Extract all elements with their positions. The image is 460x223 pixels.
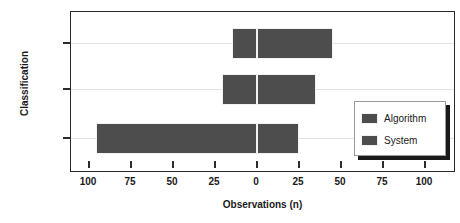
x-tick-mark-3	[214, 161, 216, 168]
legend-swatch-algorithm	[361, 113, 378, 124]
x-tick-label-4: 0	[236, 176, 276, 187]
chart-legend: Algorithm System	[354, 101, 446, 156]
x-tick-mark-4	[256, 161, 258, 168]
bar-algorithm-mop	[96, 123, 257, 154]
bar-algorithm-moe	[222, 74, 257, 105]
legend-item-algorithm: Algorithm	[361, 108, 426, 128]
x-tick-label-8: 100	[404, 176, 444, 187]
x-tick-mark-1	[130, 161, 132, 168]
x-tick-label-5: 25	[278, 176, 318, 187]
bar-algorithm-mos	[232, 28, 257, 59]
bar-chart: Classification MoSMoEMoP 100755025025507…	[0, 0, 460, 223]
x-tick-mark-8	[424, 161, 426, 168]
x-tick-label-3: 25	[194, 176, 234, 187]
y-axis-title: Classification	[19, 24, 30, 144]
x-axis-title: Observations (n)	[70, 199, 455, 210]
x-tick-mark-7	[382, 161, 384, 168]
bar-system-moe	[257, 74, 316, 105]
legend-item-system: System	[361, 130, 417, 150]
x-tick-mark-5	[298, 161, 300, 168]
x-tick-label-1: 75	[110, 176, 150, 187]
bar-system-mop	[257, 123, 299, 154]
legend-label-system: System	[384, 135, 417, 146]
x-tick-label-0: 100	[68, 176, 108, 187]
x-tick-label-6: 50	[320, 176, 360, 187]
y-tick-mark-mop	[63, 137, 70, 139]
legend-label-algorithm: Algorithm	[384, 113, 426, 124]
x-tick-mark-2	[172, 161, 174, 168]
bar-system-mos	[257, 28, 333, 59]
x-tick-label-7: 75	[362, 176, 402, 187]
x-tick-label-2: 50	[152, 176, 192, 187]
y-tick-mark-moe	[63, 88, 70, 90]
legend-swatch-system	[361, 135, 378, 146]
x-tick-mark-6	[340, 161, 342, 168]
y-tick-mark-mos	[63, 42, 70, 44]
x-tick-mark-0	[88, 161, 90, 168]
